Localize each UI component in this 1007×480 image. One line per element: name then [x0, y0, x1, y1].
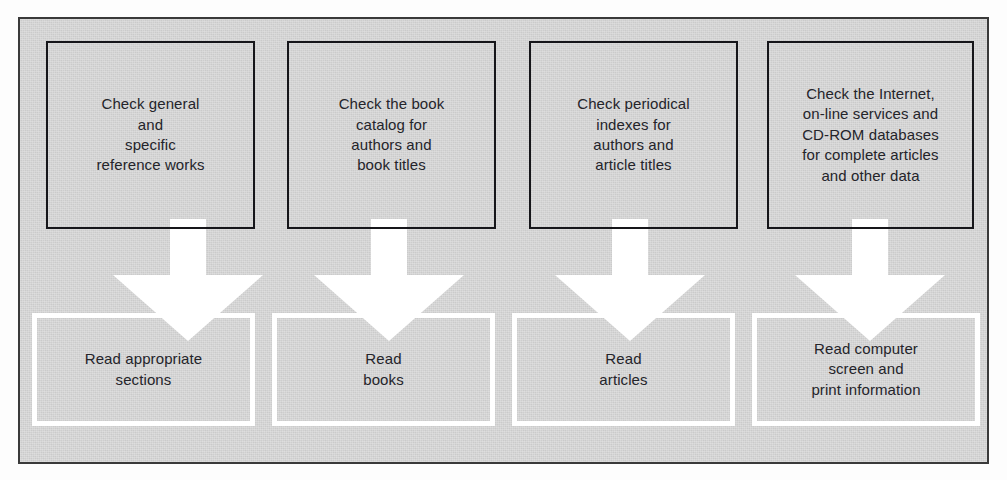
- process-box-book-catalog[interactable]: Check the book catalog for authors and b…: [287, 41, 496, 229]
- process-box-internet-databases[interactable]: Check the Internet, on-line services and…: [767, 41, 974, 229]
- process-box-label: Check the book catalog for authors and b…: [333, 94, 451, 176]
- diagram-canvas: Check general and specific reference wor…: [0, 0, 1007, 480]
- outcome-box-read-computer-screen[interactable]: Read computer screen and print informati…: [752, 313, 980, 426]
- outcome-box-read-books[interactable]: Read books: [272, 313, 495, 426]
- process-box-label: Check the Internet, on-line services and…: [796, 84, 945, 186]
- outcome-box-read-sections[interactable]: Read appropriate sections: [32, 313, 255, 426]
- outcome-box-label: Read books: [357, 349, 410, 390]
- outcome-box-read-articles[interactable]: Read articles: [512, 313, 735, 426]
- process-box-reference-works[interactable]: Check general and specific reference wor…: [46, 41, 255, 229]
- outcome-box-label: Read computer screen and print informati…: [805, 339, 926, 400]
- outcome-box-label: Read articles: [593, 349, 653, 390]
- process-box-label: Check general and specific reference wor…: [90, 94, 210, 176]
- diagram-frame: Check general and specific reference wor…: [18, 17, 989, 464]
- process-box-label: Check periodical indexes for authors and…: [571, 94, 696, 176]
- outcome-box-label: Read appropriate sections: [79, 349, 209, 390]
- process-box-periodical-indexes[interactable]: Check periodical indexes for authors and…: [529, 41, 738, 229]
